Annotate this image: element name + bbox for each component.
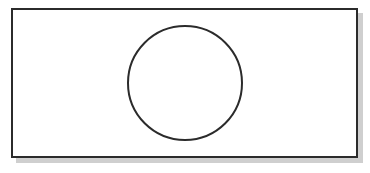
- diagram-canvas: [0, 0, 370, 173]
- circle-shape: [128, 26, 242, 140]
